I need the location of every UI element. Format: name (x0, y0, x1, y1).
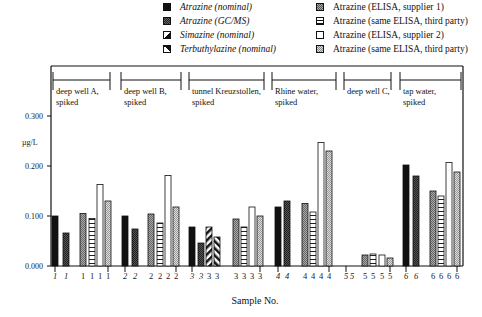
bar-elisa1_3p-sample-1 (89, 219, 95, 267)
x-tick-label: 4 (285, 271, 290, 281)
bar-elisa1-sample-6 (430, 191, 436, 266)
bar-sim_nom-sample-3 (206, 227, 212, 266)
x-tick-label: 6 (439, 271, 443, 281)
bar-elisa1-sample-5 (362, 255, 368, 266)
x-tick-label: 3 (189, 271, 194, 281)
x-tick-label: 4 (319, 271, 324, 281)
x-tick-label: 3 (258, 271, 262, 281)
bar-elisa1_3p-sample-3 (241, 227, 247, 266)
x-tick-label: 2 (149, 271, 153, 281)
bar-atr_gcms-sample-3 (198, 243, 204, 266)
x-tick-label: 2 (174, 271, 178, 281)
x-tick-label: 3 (250, 271, 254, 281)
x-tick-label: 3 (215, 271, 219, 281)
x-tick-label: 1 (106, 271, 110, 281)
x-tick-label: 5 (350, 271, 354, 281)
section-label: tap water, (403, 86, 436, 96)
bars (52, 143, 460, 267)
bar-elisa2-sample-3 (249, 207, 255, 266)
bar-elisa1-sample-1 (80, 214, 86, 267)
x-tick-label: 5 (344, 271, 348, 281)
bar-atr_nom-sample-3 (189, 227, 195, 266)
y-axis-label: µg/L (22, 138, 38, 147)
x-tick-label: 4 (311, 271, 316, 281)
x-tick-label: 3 (207, 271, 211, 281)
bar-elisa2_3p-sample-3 (257, 216, 263, 266)
section-label: tunnel Kreuzstollen, (192, 86, 261, 96)
bar-elisa1_3p-sample-4 (310, 212, 316, 266)
y-axis: 0.0000.1000.2000.300µg/L (22, 112, 51, 271)
x-tick-label: 1 (81, 271, 85, 281)
x-tick-label: 6 (455, 271, 459, 281)
x-axis-label: Sample No. (231, 295, 278, 306)
x-tick-label: 6 (404, 271, 409, 281)
section-label: deep well A, (56, 86, 99, 96)
bar-atr_gcms-sample-4 (284, 201, 290, 266)
x-tick-label: 1 (90, 271, 94, 281)
x-tick-label: 3 (234, 271, 238, 281)
section-label: Rhine water, (275, 86, 318, 96)
x-tick-label: 5 (388, 271, 392, 281)
bar-elisa2-sample-4 (318, 143, 324, 267)
x-tick-label: 2 (158, 271, 162, 281)
bar-atr_gcms-sample-6 (413, 176, 419, 266)
x-tick-label: 2 (166, 271, 170, 281)
x-tick-label: 2 (133, 271, 138, 281)
x-tick-label: 1 (64, 271, 68, 281)
sample-sections: deep well A,spikeddeep well B,spikedtunn… (53, 72, 461, 107)
bar-terb_nom-sample-3 (214, 237, 220, 266)
bar-elisa1_3p-sample-5 (370, 254, 376, 266)
bar-chart: deep well A,spikeddeep well B,spikedtunn… (0, 0, 482, 317)
y-tick-label: 0.000 (25, 262, 43, 271)
section-label: spiked (403, 97, 426, 107)
bar-atr_nom-sample-4 (275, 207, 281, 266)
x-tick-label: 6 (447, 271, 451, 281)
section-label: deep well B, (124, 86, 167, 96)
section-label: spiked (124, 97, 147, 107)
x-tick-label: 4 (276, 271, 281, 281)
x-tick-label: 6 (431, 271, 435, 281)
bar-elisa2_3p-sample-2 (173, 207, 179, 266)
bar-elisa2-sample-2 (165, 176, 171, 267)
bar-elisa2-sample-5 (379, 255, 385, 266)
y-tick-label: 0.300 (25, 112, 43, 121)
bar-elisa2_3p-sample-6 (454, 172, 460, 266)
y-tick-label: 0.100 (25, 212, 43, 221)
section-label: spiked (275, 97, 298, 107)
bar-elisa2_3p-sample-4 (326, 151, 332, 266)
bar-elisa1-sample-2 (148, 214, 154, 266)
x-tick-label: 6 (414, 271, 419, 281)
x-tick-label: 1 (98, 271, 102, 281)
bar-elisa1-sample-3 (233, 219, 239, 266)
bar-atr_nom-sample-2 (122, 216, 128, 266)
bar-elisa1-sample-4 (302, 204, 308, 267)
bar-elisa1_3p-sample-6 (438, 196, 444, 266)
bar-atr_gcms-sample-2 (132, 229, 138, 266)
x-tick-label: 2 (123, 271, 128, 281)
x-tick-label: 5 (371, 271, 375, 281)
bar-elisa2-sample-1 (97, 185, 103, 267)
section-label: spiked (192, 97, 215, 107)
section-label: spiked (56, 97, 79, 107)
x-tick-label: 3 (198, 271, 203, 281)
x-tick-label: 5 (380, 271, 384, 281)
x-tick-label: 4 (303, 271, 308, 281)
x-tick-label: 5 (363, 271, 367, 281)
x-tick-label: 4 (327, 271, 332, 281)
bar-elisa2_3p-sample-5 (387, 258, 393, 266)
x-axis: 11111122222233333333444444555555666666Sa… (53, 266, 459, 306)
bar-atr_nom-sample-6 (403, 165, 409, 266)
x-tick-label: 1 (53, 271, 57, 281)
y-tick-label: 0.200 (25, 162, 43, 171)
section-label: deep well C, (347, 86, 390, 96)
bar-elisa2_3p-sample-1 (105, 201, 111, 266)
bar-elisa2-sample-6 (446, 163, 452, 267)
bar-elisa1_3p-sample-2 (157, 223, 163, 266)
bar-atr_nom-sample-1 (52, 216, 58, 266)
bar-atr_gcms-sample-1 (63, 233, 69, 266)
x-tick-label: 3 (242, 271, 246, 281)
